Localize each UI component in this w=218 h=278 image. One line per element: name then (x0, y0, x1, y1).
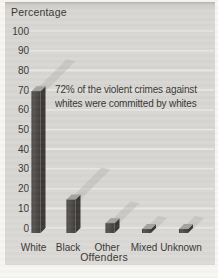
annotation-line-1: 72% of the violent crimes against (55, 83, 217, 97)
x-category-label: White (21, 242, 47, 253)
y-tick-label: 50 (18, 124, 30, 135)
y-tick-label: 20 (18, 183, 30, 194)
y-tick-label: 0 (23, 223, 29, 234)
bar-chart: 1009080706050403020100WhiteBlackOtherMix… (0, 0, 218, 278)
bar-white (32, 91, 41, 233)
y-tick-label: 40 (18, 144, 30, 155)
bar-side-face (41, 86, 46, 233)
y-tick-label: 80 (18, 65, 30, 76)
y-axis-title: Percentage (11, 6, 67, 18)
y-tick-label: 30 (18, 163, 30, 174)
annotation-line-2: whites were committed by whites (55, 97, 217, 111)
bar-black (67, 200, 76, 233)
y-tick-label: 70 (18, 85, 30, 96)
y-tick-label: 90 (18, 45, 30, 56)
bar-other (106, 223, 115, 233)
chart-page: 1009080706050403020100WhiteBlackOtherMix… (0, 0, 218, 278)
bar-side-face (76, 195, 81, 233)
y-tick-label: 60 (18, 104, 30, 115)
y-tick-label: 10 (18, 203, 30, 214)
bar-mixed (142, 229, 151, 233)
x-axis-title: Offenders (54, 251, 154, 263)
chart-annotation: 72% of the violent crimes against whites… (55, 83, 217, 110)
x-category-label: Unknown (160, 242, 202, 253)
y-tick-label: 100 (12, 26, 29, 37)
bar-unknown (179, 229, 188, 233)
